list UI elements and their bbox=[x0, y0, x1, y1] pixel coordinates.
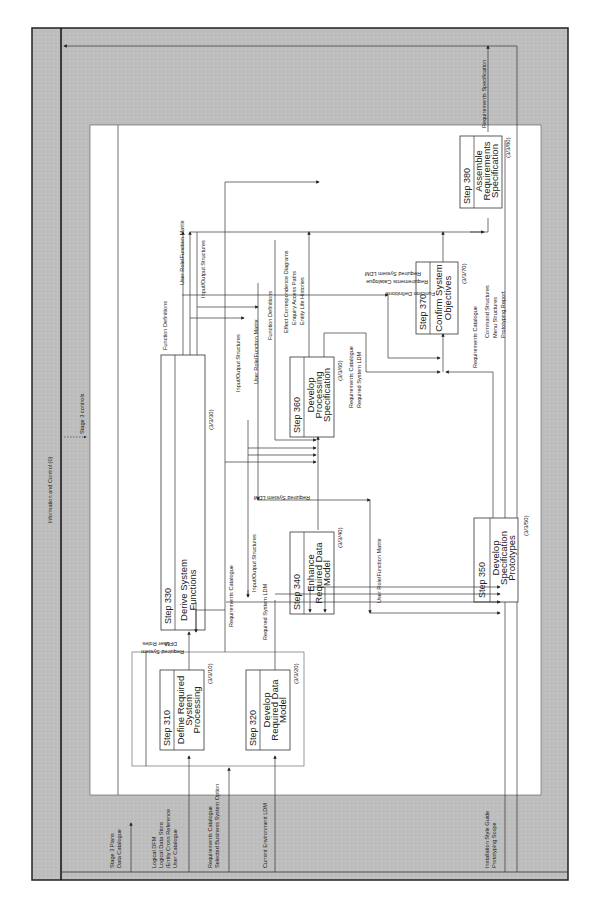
step-370-ref: (3/3/70) bbox=[461, 263, 467, 284]
step-310-label: Step 310 bbox=[162, 710, 172, 746]
flow-label: Entity Life Histories bbox=[299, 277, 305, 325]
flow-label: Enquiry Access Paths bbox=[291, 271, 297, 325]
flow-label: Input/Output Structures bbox=[251, 534, 257, 592]
flow-label: Requirements Catalogue bbox=[228, 565, 234, 627]
input-entity-cross-reference: /Entity Cross Reference bbox=[165, 809, 171, 868]
input-user-catalogue: User Catalogue bbox=[172, 829, 178, 868]
step-360-ref: (3/3/60) bbox=[337, 360, 343, 381]
flow-label: Menu Structures bbox=[492, 297, 498, 338]
input-data-catalogue: Data Catalogue bbox=[116, 829, 122, 868]
input-selected-bso: Selected Business System Option bbox=[214, 784, 220, 868]
flow-label: Requirements Catalogue bbox=[472, 306, 478, 368]
input-logical-data-store: Logical Data Store bbox=[158, 822, 164, 868]
step-320-title: Model bbox=[277, 697, 288, 723]
step-350-label: Step 350 bbox=[477, 562, 487, 598]
flow-label: User Roles bbox=[142, 641, 170, 647]
flow-label: Required System LDM bbox=[262, 583, 268, 640]
flow-label: Command Structures bbox=[484, 285, 490, 338]
step-380-ref: (3/3/80) bbox=[505, 137, 511, 158]
step-340-ref: (3/3/40) bbox=[337, 527, 343, 548]
flow-label: User Role/Function Matrix bbox=[179, 220, 185, 285]
flow-label: Required System bbox=[141, 649, 184, 655]
step-320-ref: (3/3/20) bbox=[293, 663, 299, 684]
ssadm-stage3-diagram: Information and Control (0) Stage 3 cont… bbox=[0, 0, 592, 906]
flow-label: Requirements Catalogue bbox=[348, 346, 354, 408]
stage-boundary bbox=[90, 125, 541, 795]
step-370-label: Step 370 bbox=[418, 294, 428, 330]
step-340-label: Step 340 bbox=[292, 574, 302, 610]
flow-label: Function Definitions bbox=[267, 291, 273, 340]
input-requirements-catalogue: Requirements Catalogue bbox=[207, 806, 213, 868]
step-360-title: Specification bbox=[321, 368, 332, 422]
input-installation-style-guide: Installation Style Guide bbox=[484, 811, 490, 868]
step-340-title: Model bbox=[321, 560, 332, 586]
input-current-environment-ldm: Current Environment LDM bbox=[262, 803, 268, 868]
flow-label: Requirements Catalogue bbox=[366, 279, 428, 285]
step-360-label: Step 360 bbox=[292, 397, 302, 433]
stage-controls-label: Stage 3 controls bbox=[79, 393, 85, 434]
step-350-ref: (3/3/50) bbox=[523, 515, 529, 536]
step-330-label: Step 330 bbox=[163, 588, 173, 624]
step-320-label: Step 320 bbox=[248, 710, 258, 746]
flow-label: User Role/Function Matrix bbox=[253, 319, 259, 384]
flow-label: Effect Correspondence Diagrams bbox=[283, 250, 289, 333]
flow-label: User Role/Function Matrix bbox=[376, 538, 382, 603]
flow-label: Input/Output Structures bbox=[200, 240, 206, 298]
flow-label: Input/Output Structures bbox=[235, 334, 241, 392]
flow-label: Required System LDM bbox=[364, 271, 421, 277]
step-310-title: Processing bbox=[191, 687, 202, 734]
step-350-title: Prototypes bbox=[506, 535, 517, 581]
step-380-title: Specification bbox=[489, 144, 500, 198]
input-prototyping-scope: Prototyping Scope bbox=[491, 822, 497, 868]
step-330-ref: (3/3/30) bbox=[208, 409, 214, 430]
flow-label: Function Definitions bbox=[386, 291, 435, 297]
step-310-ref: (3/3/10) bbox=[207, 663, 213, 684]
step-330-title: Functions bbox=[187, 569, 198, 610]
flow-label: Prototyping Report bbox=[500, 291, 506, 338]
frame-title: Information and Control (0) bbox=[47, 456, 53, 523]
output-requirements-specification: Requirements Specification bbox=[481, 60, 487, 128]
flow-label: Function Definitions bbox=[162, 301, 168, 350]
input-stage-plans: Stage 3 Plans bbox=[109, 833, 115, 868]
step-380-label: Step 380 bbox=[462, 168, 472, 204]
flow-label: Required System LDM bbox=[356, 351, 362, 408]
step-370-title: Objectives bbox=[442, 276, 453, 321]
input-logical-dfm: Logical DFM bbox=[151, 836, 157, 868]
